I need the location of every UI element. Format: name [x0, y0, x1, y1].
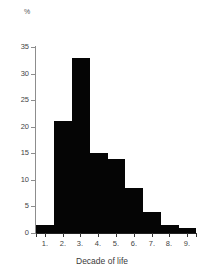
- bar: [125, 188, 143, 233]
- bar: [54, 121, 72, 233]
- y-tick-label: 5: [0, 202, 29, 210]
- bar: [89, 153, 107, 233]
- y-tick-label: 20: [0, 123, 29, 131]
- plot-area: [36, 47, 196, 233]
- x-tick-label: 3.: [70, 240, 90, 248]
- x-tick-label: 4.: [88, 240, 108, 248]
- bar: [178, 228, 196, 233]
- x-tick-mark: [116, 233, 117, 237]
- x-tick-mark: [169, 233, 170, 237]
- y-tick-label-text: 35: [3, 43, 29, 51]
- y-tick-label-text: 15: [3, 149, 29, 157]
- x-tick-mark: [98, 233, 99, 237]
- y-tick-label-text: 25: [3, 96, 29, 104]
- y-tick-label-text: 20: [3, 123, 29, 131]
- x-tick-mark: [63, 233, 64, 237]
- y-tick-label: 30: [0, 70, 29, 78]
- bar: [107, 159, 125, 233]
- x-tick-mark: [152, 233, 153, 237]
- x-tick-label: 9.: [177, 240, 197, 248]
- y-axis-unit-label: %: [24, 7, 30, 16]
- x-axis-title: Decade of life: [0, 256, 204, 266]
- bar: [143, 212, 161, 233]
- y-tick-label-text: 30: [3, 70, 29, 78]
- bar: [72, 58, 90, 233]
- histogram-chart: % 05101520253035 1.2.3.4.5.6.7.8.9. Deca…: [0, 0, 204, 275]
- y-tick-label-text: 5: [3, 202, 29, 210]
- y-tick-label: 10: [0, 176, 29, 184]
- x-tick-label: 1.: [35, 240, 55, 248]
- y-tick-label: 35: [0, 43, 29, 51]
- x-tick-label: 8.: [159, 240, 179, 248]
- bar: [160, 225, 178, 233]
- y-tick-label: 0: [0, 229, 29, 237]
- x-tick-label: 5.: [106, 240, 126, 248]
- bar: [36, 225, 54, 233]
- y-tick-label-text: 10: [3, 176, 29, 184]
- x-tick-mark: [187, 233, 188, 237]
- y-tick-label: 25: [0, 96, 29, 104]
- y-tick-label: 15: [0, 149, 29, 157]
- x-axis-start-tick: [36, 233, 37, 237]
- x-tick-label: 6.: [124, 240, 144, 248]
- x-tick-mark: [45, 233, 46, 237]
- x-axis-end-tick: [196, 233, 197, 237]
- x-tick-mark: [134, 233, 135, 237]
- x-tick-mark: [80, 233, 81, 237]
- y-tick-label-text: 0: [3, 229, 29, 237]
